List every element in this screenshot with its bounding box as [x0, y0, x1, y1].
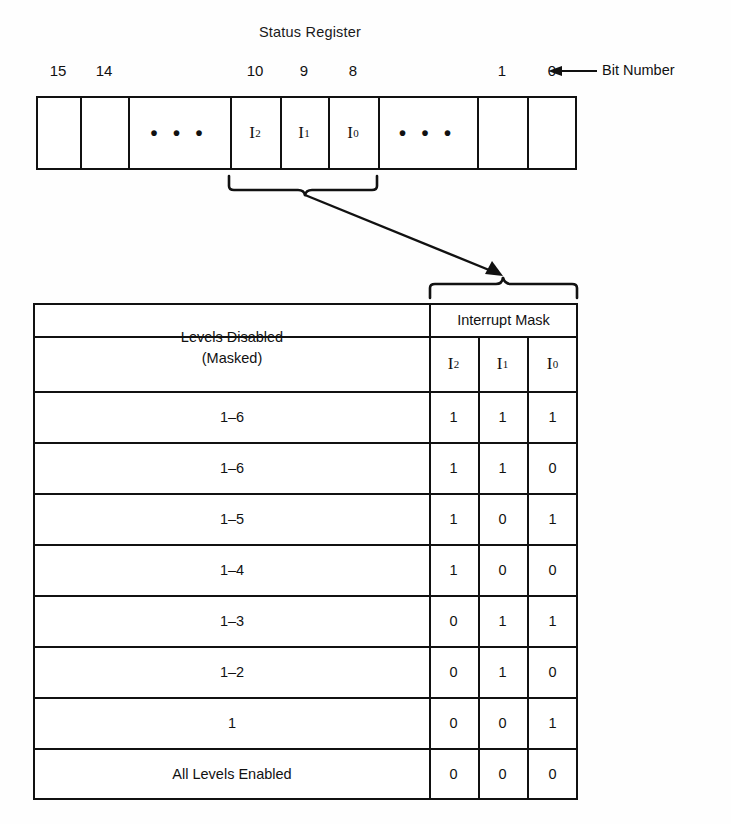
- row-bit-i0-1: 0: [527, 442, 578, 493]
- bit-label-15: 15: [36, 62, 80, 79]
- row-levels-7: All Levels Enabled: [172, 766, 291, 782]
- row-levels-6: 1: [228, 715, 236, 731]
- table-header-bit-i2-sub: 2: [454, 358, 460, 370]
- bit-label-14: 14: [80, 62, 128, 79]
- row-bit-i0-6: 1: [527, 697, 578, 748]
- register-mask-brace-icon: [229, 176, 377, 195]
- bit-label-10: 10: [230, 62, 280, 79]
- row-bit-i0-5: 0: [527, 646, 578, 697]
- register-divider-1: [80, 96, 82, 170]
- row-levels-2: 1–5: [220, 511, 244, 527]
- row-bit-i1-6: 0: [478, 697, 527, 748]
- row-bit-i2-7: 0: [429, 748, 478, 799]
- status-register-title: Status Register: [0, 24, 620, 40]
- table-header-bit-i2: I2: [429, 336, 478, 391]
- row-bit-i0-4: 1: [527, 595, 578, 646]
- table-row: 1: [35, 697, 429, 748]
- register-cell-i2-base: I: [249, 123, 255, 143]
- table-header-bit-i1-base: I: [497, 354, 503, 374]
- table-row: 1–5: [35, 493, 429, 544]
- row-bit-i1-3: 0: [478, 544, 527, 595]
- row-bit-i1-1: 1: [478, 442, 527, 493]
- row-bit-i2-1: 1: [429, 442, 478, 493]
- table-row: 1–2: [35, 646, 429, 697]
- row-levels-5: 1–2: [220, 664, 244, 680]
- register-cell-i0: I0: [328, 96, 378, 170]
- table-row: 1–6: [35, 391, 429, 442]
- row-bit-i0-0: 1: [527, 391, 578, 442]
- table-row: All Levels Enabled: [35, 748, 429, 799]
- register-cell-i1-sub: 1: [304, 127, 310, 139]
- row-bit-i1-4: 1: [478, 595, 527, 646]
- table-header-levels-line1: Levels Disabled: [181, 327, 283, 348]
- bit-label-8: 8: [328, 62, 378, 79]
- bit-label-0: 0: [527, 62, 577, 79]
- row-levels-3: 1–4: [220, 562, 244, 578]
- table-header-interrupt-mask: Interrupt Mask: [429, 303, 578, 336]
- bit-label-1: 1: [477, 62, 527, 79]
- row-bit-i0-2: 1: [527, 493, 578, 544]
- table-header-bit-i0-sub: 0: [553, 358, 559, 370]
- row-bit-i2-4: 0: [429, 595, 478, 646]
- register-cell-i0-sub: 0: [353, 127, 359, 139]
- row-bit-i1-0: 1: [478, 391, 527, 442]
- register-cell-i0-base: I: [347, 123, 353, 143]
- row-levels-1: 1–6: [220, 460, 244, 476]
- table-header-levels-disabled: Levels Disabled (Masked): [35, 305, 429, 391]
- row-bit-i1-2: 0: [478, 493, 527, 544]
- row-bit-i2-0: 1: [429, 391, 478, 442]
- table-row: 1–4: [35, 544, 429, 595]
- table-header-bit-i2-base: I: [448, 354, 454, 374]
- register-cell-i2: I2: [230, 96, 280, 170]
- table-header-bit-i0: I0: [527, 336, 578, 391]
- register-divider-8: [527, 96, 529, 170]
- register-cell-i1-base: I: [298, 123, 304, 143]
- table-header-levels-line2: (Masked): [181, 348, 283, 369]
- register-divider-7: [477, 96, 479, 170]
- row-bit-i2-2: 1: [429, 493, 478, 544]
- register-cell-i1: I1: [280, 96, 328, 170]
- table-header-bit-i0-base: I: [547, 354, 553, 374]
- bit-label-9: 9: [280, 62, 328, 79]
- row-bit-i1-7: 0: [478, 748, 527, 799]
- mask-expansion-arrow-icon: [305, 195, 503, 276]
- register-cell-ellipsis-left: • • •: [128, 96, 230, 170]
- row-bit-i1-5: 1: [478, 646, 527, 697]
- row-bit-i0-7: 0: [527, 748, 578, 799]
- table-row: 1–3: [35, 595, 429, 646]
- bit-number-caption: Bit Number: [602, 62, 675, 78]
- row-bit-i2-3: 1: [429, 544, 478, 595]
- table-row: 1–6: [35, 442, 429, 493]
- row-bit-i2-6: 0: [429, 697, 478, 748]
- register-cell-ellipsis-right: • • •: [378, 96, 477, 170]
- register-cell-i2-sub: 2: [255, 127, 261, 139]
- table-header-bit-i1-sub: 1: [503, 358, 509, 370]
- row-bit-i0-3: 0: [527, 544, 578, 595]
- interrupt-mask-brace-icon: [430, 278, 577, 298]
- row-bit-i2-5: 0: [429, 646, 478, 697]
- row-levels-0: 1–6: [220, 409, 244, 425]
- table-header-bit-i1: I1: [478, 336, 527, 391]
- status-register-interrupt-mask-figure: Status Register 15 14 10 9 8 1 0 Bit Num…: [0, 0, 731, 824]
- row-levels-4: 1–3: [220, 613, 244, 629]
